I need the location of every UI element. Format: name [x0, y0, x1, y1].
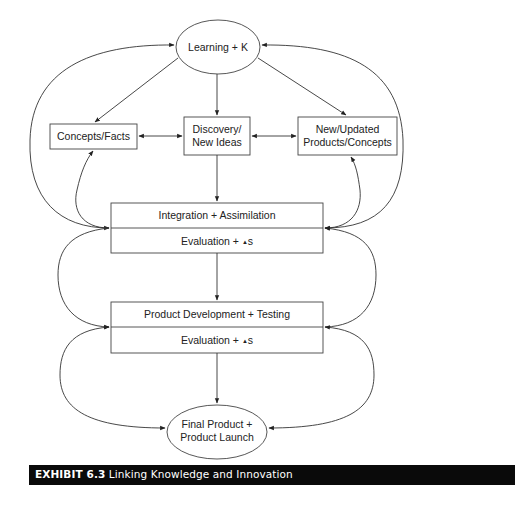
- integration-node-label: Integration + Assimilation: [158, 209, 275, 221]
- caption-text: EXHIBIT 6.3 Linking Knowledge and Innova…: [35, 468, 293, 480]
- product-dev-evaluation-prefix: Evaluation +: [181, 334, 242, 346]
- arrow-learning-to-concepts: [95, 58, 178, 122]
- arrow-learning-to-new-products: [258, 58, 346, 115]
- integration-evaluation-prefix: Evaluation +: [181, 235, 242, 247]
- final-node-label-line2: Product Launch: [180, 431, 254, 443]
- learning-node-label: Learning + K: [188, 41, 248, 53]
- integration-evaluation-label: Evaluation + ▲s: [181, 235, 253, 247]
- curve-left-product-dev-final: [60, 327, 165, 428]
- final-node-label-line1: Final Product +: [182, 418, 253, 430]
- new-products-node-label-line2: Products/Concepts: [303, 136, 392, 148]
- discovery-node-label-line2: New Ideas: [192, 136, 242, 148]
- product-dev-node-label: Product Development + Testing: [144, 308, 290, 320]
- product-dev-evaluation-label: Evaluation + ▲s: [181, 334, 253, 346]
- curve-left-integration-product-dev: [58, 228, 109, 327]
- caption-label: EXHIBIT 6.3: [35, 468, 105, 480]
- curve-integration-to-concepts: [76, 151, 109, 228]
- knowledge-innovation-diagram: Learning + K Concepts/Facts Discovery/ N…: [0, 0, 531, 505]
- caption-title: Linking Knowledge and Innovation: [109, 468, 293, 480]
- product-dev-evaluation-suffix: s: [248, 334, 253, 346]
- curve-integration-to-new-products: [325, 157, 360, 228]
- integration-evaluation-suffix: s: [248, 235, 253, 247]
- exhibit-caption: EXHIBIT 6.3 Linking Knowledge and Innova…: [29, 465, 515, 485]
- discovery-node-label-line1: Discovery/: [192, 123, 241, 135]
- curve-right-integration-product-dev: [325, 228, 376, 327]
- new-products-node-label-line1: New/Updated: [316, 123, 380, 135]
- curve-right-product-dev-final: [269, 327, 374, 428]
- concepts-node-label: Concepts/Facts: [57, 130, 130, 142]
